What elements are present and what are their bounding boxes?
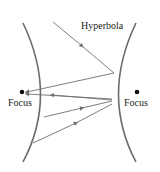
hyperbola-diagram: Hyperbola Focus Focus xyxy=(0,0,160,172)
right-hyperbola-branch xyxy=(119,23,137,162)
right-focus-label: Focus xyxy=(124,97,148,108)
left-focus-label: Focus xyxy=(8,97,32,108)
left-focus-point xyxy=(20,90,25,95)
ray-reflected-3 xyxy=(52,95,112,100)
hyperbola-label: Hyperbola xyxy=(81,20,124,31)
right-focus-point xyxy=(135,90,140,95)
